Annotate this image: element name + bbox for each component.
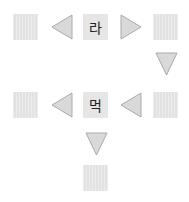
empty-box-row1-right	[153, 14, 178, 40]
arrow-right-icon	[120, 14, 142, 40]
empty-box-row2-right	[153, 92, 178, 118]
syllable-label: 라	[89, 17, 102, 37]
arrow-left-icon	[120, 92, 142, 118]
arrow-down-icon	[85, 132, 108, 156]
syllable-box-meok: 먹	[83, 92, 108, 118]
empty-box-row2-left	[13, 92, 38, 118]
empty-box-bottom	[83, 165, 108, 191]
arrow-down-icon	[155, 52, 178, 76]
syllable-label: 먹	[89, 95, 102, 115]
arrow-left-icon	[51, 14, 73, 40]
arrow-left-icon	[51, 92, 73, 118]
empty-box-row1-left	[13, 14, 38, 40]
syllable-box-ra: 라	[83, 14, 108, 40]
